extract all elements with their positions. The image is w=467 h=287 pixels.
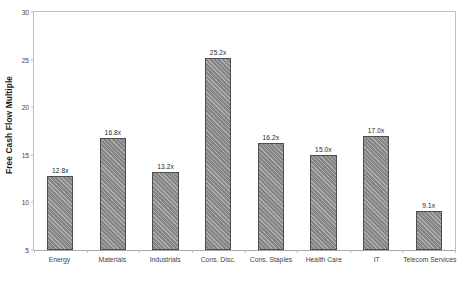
plot-canvas: 5101520253012.8x16.8x13.2x25.2x16.2x15.0… [34, 12, 455, 250]
x-axis-labels: EnergyMaterialsIndustrialsCons. Disc.Con… [33, 256, 456, 270]
x-axis-tick-mark [245, 250, 246, 253]
bar-slot: 13.2x [139, 12, 192, 250]
bar-slot: 15.0x [297, 12, 350, 250]
bar-slot: 12.8x [34, 12, 87, 250]
bar-value-label: 17.0x [368, 127, 385, 134]
y-axis-tick-label: 15 [22, 151, 34, 158]
figure-caption [0, 279, 467, 287]
x-axis-tick-mark [192, 250, 193, 253]
x-axis-tick-mark [297, 250, 298, 253]
bar[interactable] [205, 58, 231, 250]
y-axis-tick-label: 30 [22, 9, 34, 16]
plot-area: 5101520253012.8x16.8x13.2x25.2x16.2x15.0… [33, 11, 456, 251]
bar[interactable] [310, 155, 336, 250]
x-axis-category-label: Industrials [139, 256, 192, 263]
bar[interactable] [258, 143, 284, 250]
bar[interactable] [363, 136, 389, 250]
x-axis-tick-mark [350, 250, 351, 253]
bar-slot: 9.1x [402, 12, 455, 250]
bar[interactable] [152, 172, 178, 250]
x-axis-category-label: Health Care [297, 256, 350, 263]
bar-slot: 16.8x [87, 12, 140, 250]
bar-value-label: 13.2x [157, 163, 174, 170]
bar-value-label: 12.8x [52, 167, 69, 174]
bar-chart-figure: Free Cash Flow Multiple 5101520253012.8x… [0, 0, 467, 287]
bar-slot: 16.2x [245, 12, 298, 250]
bar-slot: 17.0x [350, 12, 403, 250]
y-axis-title-text: Free Cash Flow Multiple [4, 76, 14, 174]
x-axis-tick-mark [87, 250, 88, 253]
x-axis-tick-mark [402, 250, 403, 253]
x-axis-category-label: Telecom Services [403, 256, 456, 263]
x-axis-category-label: Energy [33, 256, 86, 263]
bar[interactable] [100, 138, 126, 250]
x-axis-tick-mark [139, 250, 140, 253]
bar-value-label: 15.0x [315, 146, 332, 153]
x-axis-tick-mark [455, 250, 456, 253]
y-axis-title: Free Cash Flow Multiple [0, 0, 18, 250]
bar-slot: 25.2x [192, 12, 245, 250]
x-axis-category-label: Cons. Staples [245, 256, 298, 263]
x-axis-category-label: Cons. Disc. [192, 256, 245, 263]
bar[interactable] [47, 176, 73, 250]
x-axis-tick-mark [34, 250, 35, 253]
y-axis-tick-label: 10 [22, 199, 34, 206]
y-axis-tick-label: 5 [25, 247, 34, 254]
x-axis-category-label: Materials [86, 256, 139, 263]
y-axis-tick-label: 25 [22, 56, 34, 63]
y-axis-tick-label: 20 [22, 104, 34, 111]
bar-value-label: 16.8x [105, 129, 122, 136]
bar-value-label: 9.1x [422, 202, 435, 209]
bar-value-label: 16.2x [262, 134, 279, 141]
x-axis-category-label: IT [350, 256, 403, 263]
bar[interactable] [416, 211, 442, 250]
bar-value-label: 25.2x [210, 49, 227, 56]
